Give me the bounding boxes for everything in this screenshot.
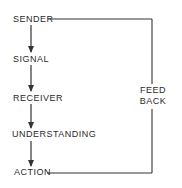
step-action: ACTION [14,167,51,177]
feedback-label: FEED BACK [138,85,168,107]
step-sender: SENDER [13,14,54,24]
feedback-label-line2: BACK [138,96,168,107]
arrowhead-icon [28,122,34,129]
arrowhead-icon [28,46,34,53]
step-receiver: RECEIVER [13,93,63,103]
arrowhead-icon [28,160,34,167]
step-understanding: UNDERSTANDING [12,129,96,139]
arrowhead-icon [28,85,34,92]
communication-flow-diagram: SENDER SIGNAL RECEIVER UNDERSTANDING ACT… [0,0,182,188]
step-signal: SIGNAL [13,54,49,64]
feedback-label-line1: FEED [138,85,168,96]
